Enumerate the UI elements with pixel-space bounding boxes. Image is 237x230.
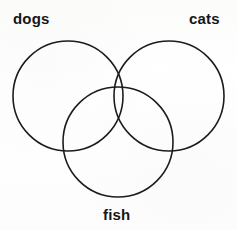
venn-label-cats: cats [189,11,220,26]
venn-circle-fish [63,87,173,197]
venn-circle-cats [114,41,224,151]
venn-label-fish: fish [103,207,130,222]
venn-label-dogs: dogs [13,11,50,26]
venn-diagram-screenshot: dogs cats fish [0,0,237,230]
venn-circle-dogs [13,41,123,151]
venn-diagram-canvas [0,0,237,230]
